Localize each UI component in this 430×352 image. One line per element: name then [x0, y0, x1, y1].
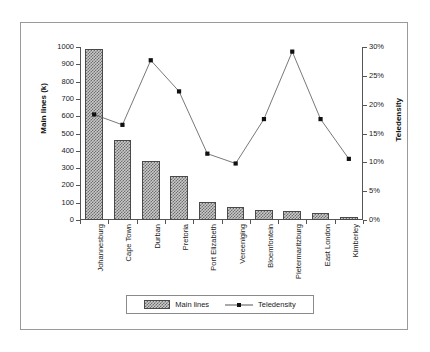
legend-label-teledensity: Teledensity — [258, 300, 296, 309]
x-axis-category-label: Vereeniging — [239, 224, 247, 264]
y-axis-right-tick — [363, 105, 367, 106]
x-axis-category-label: Bloemfontein — [267, 224, 275, 268]
bar-swatch-icon — [144, 300, 170, 309]
teledensity-polyline — [94, 52, 349, 164]
x-axis-category-label: Pietermaritzburg — [295, 224, 303, 279]
y-axis-right-tick-label: 10% — [369, 159, 384, 167]
y-axis-right-tick-label: 5% — [369, 187, 380, 195]
teledensity-marker — [205, 152, 209, 156]
y-axis-left-tick-label: 900 — [61, 61, 74, 69]
y-axis-right-tick — [363, 76, 367, 77]
teledensity-marker — [177, 89, 181, 93]
y-axis-left-tick-label: 400 — [61, 147, 74, 155]
y-axis-left-tick-label: 300 — [61, 164, 74, 172]
y-axis-left-title: Main lines (k) — [39, 83, 48, 134]
chart-legend: Main lines Teledensity — [126, 295, 314, 314]
y-axis-right-tick-label: 30% — [369, 43, 384, 51]
y-axis-left-tick-label: 200 — [61, 182, 74, 190]
y-axis-right-tick — [363, 191, 367, 192]
teledensity-marker — [92, 112, 96, 116]
teledensity-marker — [120, 123, 124, 127]
plot-area: 01002003004005006007008009001000 0%5%10%… — [80, 47, 363, 220]
y-axis-left-tick-label: 0 — [70, 216, 74, 224]
x-axis-category-label: Durban — [154, 224, 162, 249]
teledensity-marker — [149, 58, 153, 62]
line-swatch-icon — [225, 300, 253, 309]
chart-figure-frame: Main lines (k) Teledensity 0100200300400… — [20, 22, 408, 330]
teledensity-marker — [347, 157, 351, 161]
y-axis-left-tick-label: 1000 — [57, 43, 74, 51]
y-axis-right-tick-label: 25% — [369, 72, 384, 80]
y-axis-right-tick — [363, 47, 367, 48]
x-axis-tick — [363, 220, 364, 224]
legend-item-teledensity: Teledensity — [225, 300, 296, 309]
teledensity-marker — [290, 50, 294, 54]
x-axis-category-label: Johannesburg — [97, 224, 105, 272]
legend-label-main-lines: Main lines — [175, 300, 209, 309]
y-axis-right-tick-label: 0% — [369, 216, 380, 224]
y-axis-left-tick-label: 100 — [61, 199, 74, 207]
y-axis-right-tick — [363, 162, 367, 163]
y-axis-right-tick — [363, 134, 367, 135]
y-axis-right-tick-label: 20% — [369, 101, 384, 109]
teledensity-marker — [234, 161, 238, 165]
y-axis-right-tick-label: 15% — [369, 130, 384, 138]
y-axis-left-tick-label: 600 — [61, 112, 74, 120]
teledensity-markers — [92, 50, 351, 166]
x-axis-category-label: East London — [324, 224, 332, 266]
teledensity-marker — [318, 117, 322, 121]
teledensity-marker — [262, 117, 266, 121]
x-axis-category-label: Cape Town — [125, 224, 133, 261]
x-axis-category-label: Kimberley — [352, 224, 360, 257]
x-axis-category-label: Pretoria — [182, 224, 190, 250]
y-axis-left-tick-label: 700 — [61, 95, 74, 103]
x-axis-category-label: Port Elizabeth — [210, 224, 218, 271]
y-axis-left-tick-label: 500 — [61, 130, 74, 138]
legend-item-main-lines: Main lines — [144, 300, 209, 309]
line-series-teledensity — [80, 47, 363, 220]
y-axis-left-tick-label: 800 — [61, 78, 74, 86]
y-axis-right-title: Teledensity — [394, 98, 403, 141]
